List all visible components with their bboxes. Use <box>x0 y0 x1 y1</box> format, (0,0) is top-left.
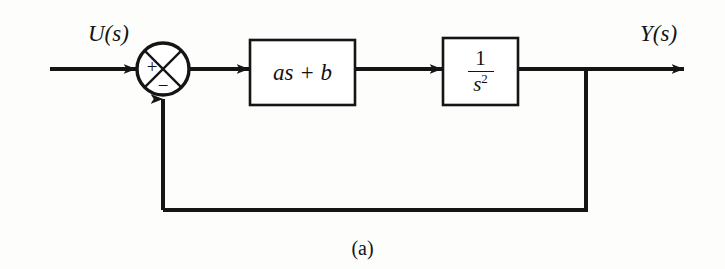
block-diagram-figure: + − U(s) Y(s) as + b 1 s2 (a) <box>0 0 725 269</box>
summing-junction-plus-sign: + <box>144 57 160 76</box>
output-signal-label: Y(s) <box>640 22 677 45</box>
block-1-label: as + b <box>250 40 355 105</box>
input-signal-label: U(s) <box>88 22 129 45</box>
block-2-denominator-exponent: 2 <box>481 71 488 86</box>
block-2-denominator: s2 <box>473 73 488 95</box>
feedback-path <box>163 69 586 210</box>
figure-caption: (a) <box>0 238 725 258</box>
block-2-numerator: 1 <box>475 48 486 70</box>
block-2-label: 1 s2 <box>443 38 518 105</box>
summing-junction-minus-sign: − <box>155 76 171 95</box>
